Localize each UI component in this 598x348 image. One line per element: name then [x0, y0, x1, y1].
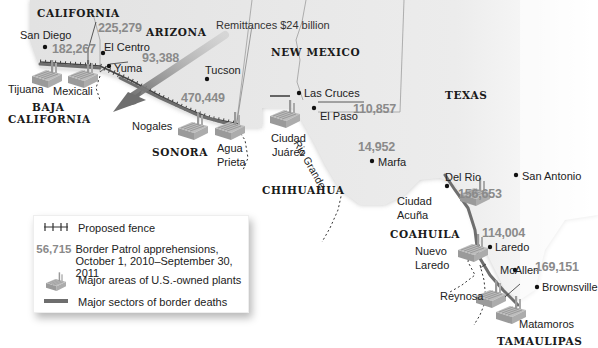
city-label-brownsville: Brownsville: [542, 281, 598, 293]
fence-icon: [34, 222, 78, 232]
city-label-agua-prieta-1: Agua: [217, 142, 243, 154]
city-label-mexicali: Mexicali: [53, 85, 93, 97]
city-label-nuevo-laredo-2: Laredo: [415, 259, 449, 271]
state-label-arizona: ARIZONA: [146, 26, 207, 38]
city-label-san-antonio: San Antonio: [522, 170, 581, 182]
city-label-san-diego: San Diego: [20, 29, 71, 41]
apprehensions-laredo: 114,004: [482, 226, 525, 240]
apprehensions-yuma: 93,388: [142, 51, 179, 65]
city-label-tucson: Tucson: [205, 64, 241, 76]
apprehensions-sample-number: 56,715: [34, 243, 76, 255]
apprehensions-san-diego: 182,267: [52, 42, 96, 56]
state-label-texas: TEXAS: [445, 89, 487, 101]
city-label-nogales: Nogales: [132, 120, 172, 132]
city-label-las-cruces: Las Cruces: [304, 87, 360, 99]
plant-icon: [34, 271, 78, 291]
city-label-marfa: Marfa: [378, 156, 406, 168]
legend-item-fence: Proposed fence: [34, 222, 155, 234]
map-legend: Proposed fence 56,715 Border Patrol appr…: [33, 215, 249, 313]
state-label-chihuahua: CHIHUAHUA: [262, 184, 344, 196]
legend-item-plants: Major areas of U.S.-owned plants: [34, 271, 241, 291]
city-label-reynosa: Reynosa: [440, 290, 483, 302]
city-label-del-rio: Del Rio: [445, 171, 481, 183]
state-label-california: CALIFORNIA: [37, 7, 120, 19]
state-label-tamaulipas: TAMAULIPAS: [497, 335, 582, 347]
city-label-matamoros: Matamoros: [519, 318, 574, 330]
city-label-tijuana: Tijuana: [8, 83, 44, 95]
city-label-ciudad-acuna-1: Ciudad: [397, 195, 432, 207]
apprehensions-del-rio: 156,653: [458, 187, 502, 201]
remittances-label: Remittances $24 billion: [216, 19, 330, 31]
apprehensions-tucson: 470,449: [181, 91, 225, 105]
city-label-laredo: Laredo: [495, 241, 529, 253]
state-label-new-mexico: NEW MEXICO: [271, 46, 360, 58]
city-label-yuma: Yuma: [114, 62, 142, 74]
city-label-ciudad-acuna-2: Acuña: [397, 209, 428, 221]
legend-item-border-deaths: Major sectors of border deaths: [34, 296, 227, 308]
state-label-coahuila: COAHUILA: [390, 228, 460, 240]
apprehensions-rio-grande-valley: 169,151: [535, 260, 579, 274]
state-label-baja-2: CALIFORNIA: [8, 113, 91, 125]
apprehensions-el-centro: 225,279: [98, 21, 142, 35]
apprehensions-marfa: 14,952: [358, 140, 395, 154]
city-label-agua-prieta-2: Prieta: [217, 156, 246, 168]
state-label-sonora: SONORA: [152, 146, 208, 158]
deaths-bar-icon: [34, 296, 78, 306]
state-label-baja-1: BAJA: [32, 101, 65, 113]
apprehensions-el-paso: 110,857: [353, 102, 396, 116]
city-label-nuevo-laredo-1: Nuevo: [415, 245, 447, 257]
city-label-mcallen: McAllen: [500, 264, 539, 276]
